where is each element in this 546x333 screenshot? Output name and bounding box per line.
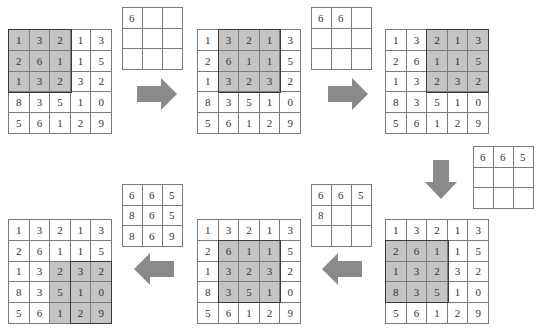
input-cell: 1: [259, 240, 280, 261]
input-cell: 2: [427, 261, 448, 282]
input-cell: 6: [218, 50, 239, 71]
input-cell: 3: [218, 92, 239, 113]
input-cell: 1: [9, 220, 30, 241]
input-cell: 1: [198, 71, 219, 92]
input-cell: 1: [239, 113, 260, 134]
output-grid-step-1: 6: [122, 7, 183, 70]
input-cell: 5: [50, 92, 71, 113]
input-cell: 8: [9, 282, 30, 303]
input-cell: 3: [468, 220, 489, 241]
input-cell: 3: [218, 220, 239, 241]
output-cell: 8: [123, 226, 143, 247]
input-cell: 2: [9, 240, 30, 261]
output-grid-step-4: 6658: [311, 184, 372, 247]
input-cell: 1: [239, 240, 260, 261]
output-cell: 6: [474, 147, 494, 168]
input-cell: 1: [427, 113, 448, 134]
input-cell: 2: [468, 261, 489, 282]
input-cell: 1: [50, 240, 71, 261]
output-cell: [352, 8, 372, 29]
input-grid-step-3: 1321326115132328351056129: [385, 29, 489, 134]
output-grid-step-5: 665865869: [122, 184, 183, 247]
input-cell: 1: [70, 240, 91, 261]
input-cell: 2: [91, 71, 112, 92]
output-cell: 6: [312, 8, 332, 29]
input-cell: 2: [70, 303, 91, 324]
input-cell: 2: [50, 261, 71, 282]
input-cell: 5: [386, 303, 407, 324]
output-grid-step-2: 66: [311, 7, 372, 70]
input-cell: 2: [239, 220, 260, 241]
input-cell: 5: [427, 92, 448, 113]
input-cell: 3: [29, 30, 50, 51]
output-cell: [332, 49, 352, 70]
output-cell: [352, 205, 372, 226]
output-cell: [312, 28, 332, 49]
input-cell: 2: [239, 30, 260, 51]
output-cell: [474, 167, 494, 188]
input-cell: 9: [280, 113, 301, 134]
output-cell: [332, 226, 352, 247]
input-cell: 1: [198, 261, 219, 282]
output-cell: [163, 28, 183, 49]
arrow-right-icon: [328, 78, 370, 110]
input-cell: 1: [386, 71, 407, 92]
input-cell: 1: [386, 220, 407, 241]
output-cell: 5: [514, 147, 534, 168]
input-cell: 5: [468, 50, 489, 71]
input-cell: 1: [259, 220, 280, 241]
input-cell: 2: [198, 50, 219, 71]
input-cell: 3: [406, 282, 427, 303]
input-cell: 3: [280, 220, 301, 241]
output-cell: [123, 49, 143, 70]
input-cell: 5: [427, 282, 448, 303]
output-cell: [143, 28, 163, 49]
input-cell: 1: [70, 282, 91, 303]
input-cell: 1: [70, 220, 91, 241]
output-cell: [163, 49, 183, 70]
input-cell: 1: [198, 220, 219, 241]
input-cell: 3: [447, 261, 468, 282]
input-cell: 3: [259, 261, 280, 282]
input-cell: 9: [468, 113, 489, 134]
input-cell: 1: [50, 303, 71, 324]
output-cell: [474, 188, 494, 209]
input-cell: 3: [218, 71, 239, 92]
input-cell: 1: [386, 261, 407, 282]
input-cell: 5: [239, 282, 260, 303]
input-cell: 3: [406, 261, 427, 282]
input-cell: 3: [406, 71, 427, 92]
input-cell: 3: [29, 261, 50, 282]
input-cell: 8: [9, 92, 30, 113]
input-cell: 2: [239, 71, 260, 92]
input-cell: 2: [50, 71, 71, 92]
input-grid-step-2: 1321326115132328351056129: [197, 29, 301, 134]
input-cell: 3: [406, 220, 427, 241]
output-cell: 6: [494, 147, 514, 168]
input-cell: 3: [70, 71, 91, 92]
input-cell: 1: [259, 50, 280, 71]
output-cell: [352, 28, 372, 49]
input-cell: 2: [280, 71, 301, 92]
input-cell: 1: [239, 303, 260, 324]
input-cell: 1: [50, 113, 71, 134]
input-cell: 5: [9, 113, 30, 134]
input-cell: 1: [70, 50, 91, 71]
input-cell: 6: [218, 113, 239, 134]
input-cell: 1: [259, 30, 280, 51]
input-cell: 2: [447, 113, 468, 134]
arrow-left-icon: [134, 253, 176, 285]
input-cell: 3: [218, 30, 239, 51]
input-cell: 6: [29, 113, 50, 134]
input-cell: 6: [406, 303, 427, 324]
output-cell: 6: [312, 185, 332, 206]
input-cell: 9: [280, 303, 301, 324]
input-cell: 1: [447, 240, 468, 261]
input-cell: 3: [91, 30, 112, 51]
input-cell: 9: [468, 303, 489, 324]
arrow-right-icon: [137, 78, 179, 110]
input-cell: 0: [468, 92, 489, 113]
input-cell: 1: [50, 50, 71, 71]
input-grid-step-4: 1321326115132328351056129: [385, 219, 489, 324]
output-cell: 6: [143, 226, 163, 247]
